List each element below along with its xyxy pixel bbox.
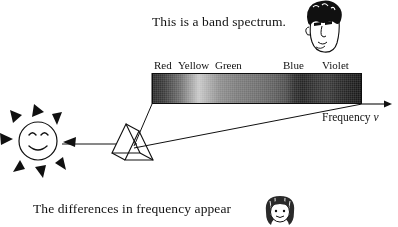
girl-head-icon	[266, 196, 294, 225]
frequency-axis-arrow	[362, 101, 392, 108]
sun-face-icon	[0, 104, 76, 178]
dispersed-beams	[134, 73, 362, 148]
man-head-icon	[306, 0, 342, 52]
sun-disc	[19, 122, 57, 160]
prism-icon	[112, 124, 153, 160]
figure-canvas: This is a band spectrum. Red Yellow Gree…	[0, 0, 398, 227]
man-ear	[306, 27, 310, 35]
girl-eye-right	[283, 210, 285, 212]
girl-eye-left	[275, 210, 277, 212]
line-art-layer	[0, 0, 398, 227]
